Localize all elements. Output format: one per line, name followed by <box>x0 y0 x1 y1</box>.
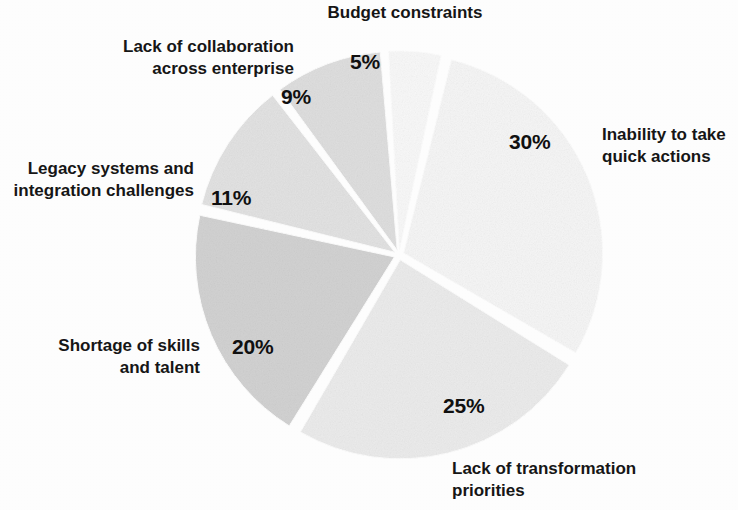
value-label-shortage-of-skills-and-talent: 20% <box>232 335 273 359</box>
category-label-legacy-systems-and-integration-challenges: Legacy systems and integration challenge… <box>4 158 194 202</box>
chart-area: Budget constraints Lack of collaboration… <box>0 0 738 510</box>
category-label-shortage-of-skills-and-talent: Shortage of skills and talent <box>28 335 200 379</box>
value-label-inability-to-take-quick-actions: 30% <box>509 130 550 154</box>
value-label-lack-of-collaboration-across-enterprise: 9% <box>281 85 311 109</box>
pie-chart-figure: Budget constraints Lack of collaboration… <box>0 0 738 510</box>
value-label-legacy-systems-and-integration-challenges: 11% <box>211 186 251 210</box>
category-label-lack-of-transformation-priorities: Lack of transformation priorities <box>452 458 712 502</box>
value-label-budget-constraints: 5% <box>350 50 380 74</box>
category-label-lack-of-collaboration-across-enterprise: Lack of collaboration across enterprise <box>78 36 294 80</box>
category-label-budget-constraints: Budget constraints <box>313 2 497 24</box>
value-label-lack-of-transformation-priorities: 25% <box>443 394 484 418</box>
category-label-inability-to-take-quick-actions: Inability to take quick actions <box>602 124 738 168</box>
pie-slices <box>195 51 602 459</box>
